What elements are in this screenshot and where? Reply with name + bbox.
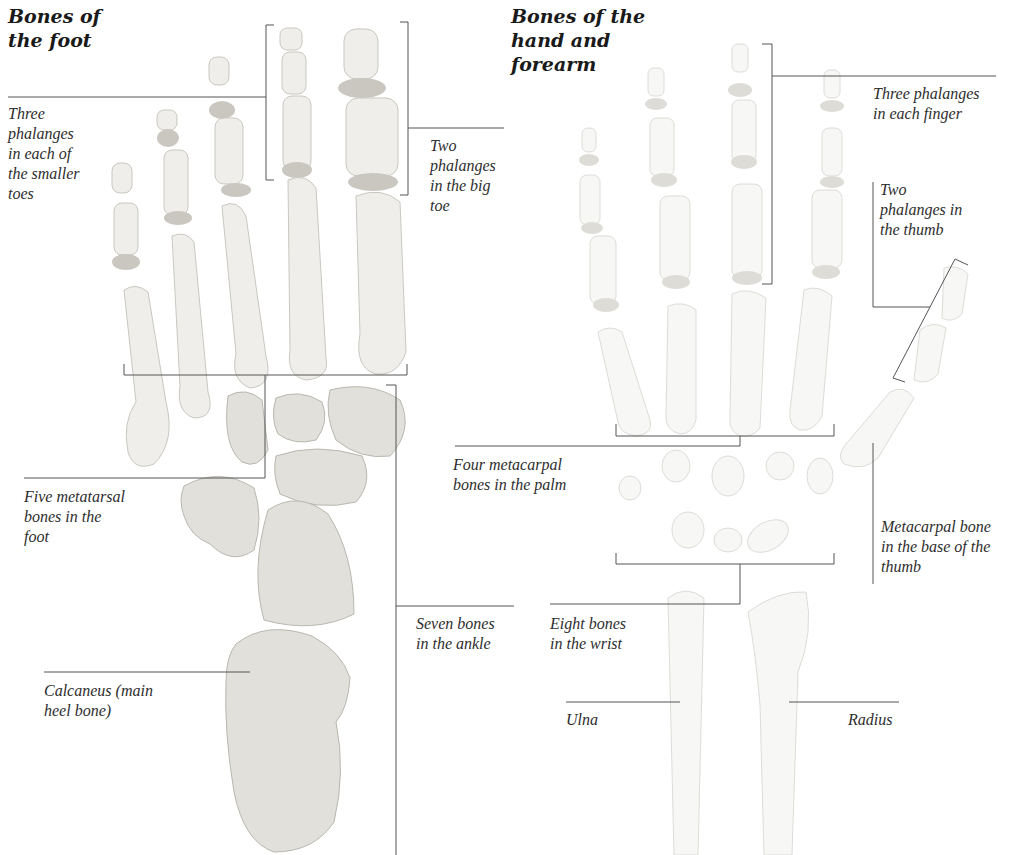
calcaneus-bone xyxy=(226,630,350,852)
hand-bones xyxy=(579,44,968,855)
foot-section-title: Bones of the foot xyxy=(8,4,101,52)
fourth-toe-phalanges xyxy=(157,110,192,225)
label-calcaneus: Calcaneus (main heel bone) xyxy=(44,681,153,721)
middle-finger-phalanges xyxy=(728,44,762,285)
thumb-bones xyxy=(840,267,968,467)
little-toe-phalanges xyxy=(112,163,140,270)
ulna-bone xyxy=(668,591,704,855)
label-phalanges-thumb: Two phalanges in the thumb xyxy=(880,180,962,240)
hand-section-title: Bones of the hand and forearm xyxy=(511,4,645,76)
third-toe-phalanges xyxy=(209,57,251,197)
little-finger-phalanges xyxy=(579,128,619,312)
radius-bone xyxy=(748,592,809,855)
label-metacarpals-palm: Four metacarpal bones in the palm xyxy=(453,455,566,495)
second-toe-phalanges xyxy=(280,28,312,178)
label-phalanges-big-toe: Two phalanges in the big toe xyxy=(430,136,496,216)
foot-bones xyxy=(112,28,406,852)
label-metatarsals: Five metatarsal bones in the foot xyxy=(24,487,125,547)
label-radius: Radius xyxy=(848,710,892,730)
label-wrist-bones: Eight bones in the wrist xyxy=(550,614,626,654)
carpal-bones xyxy=(619,450,833,559)
big-toe-phalanges xyxy=(338,29,398,191)
metacarpal-bones xyxy=(598,288,832,436)
index-finger-phalanges xyxy=(812,70,844,279)
label-phalanges-smaller-toes: Three phalanges in each of the smaller t… xyxy=(8,104,80,204)
label-phalanges-finger: Three phalanges in each finger xyxy=(873,84,980,124)
tarsal-bones xyxy=(181,387,405,626)
label-metacarpal-thumb: Metacarpal bone in the base of the thumb xyxy=(881,517,991,577)
ring-finger-phalanges xyxy=(645,68,690,289)
label-ulna: Ulna xyxy=(566,710,598,730)
label-ankle-bones: Seven bones in the ankle xyxy=(416,614,495,654)
